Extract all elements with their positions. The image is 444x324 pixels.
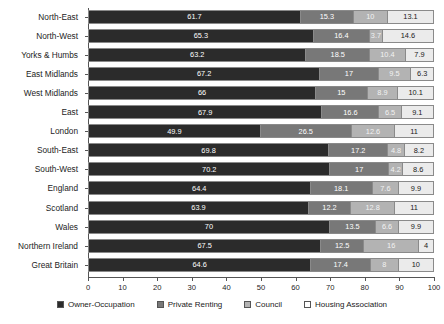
y-axis-label: South-East <box>37 143 78 157</box>
bar-segment: 10.1 <box>398 87 433 99</box>
bar-value-label: 64.4 <box>192 184 206 193</box>
x-axis-tick <box>399 277 400 281</box>
bar-value-label: 66 <box>198 88 206 97</box>
y-axis-label: South-West <box>35 162 78 176</box>
bar-row: 67.2179.56.3 <box>88 67 434 81</box>
y-axis-label: Yorks & Humbs <box>21 48 78 62</box>
bar-segment: 10.4 <box>370 49 406 61</box>
y-axis-label: Wales <box>55 220 78 234</box>
x-axis-tick <box>123 277 124 281</box>
legend-item[interactable]: Owner-Occupation <box>57 300 135 309</box>
bar-value-label: 63.9 <box>191 203 205 212</box>
bar-value-label: 18.1 <box>334 184 348 193</box>
legend-label: Housing Association <box>315 300 387 309</box>
bar-value-label: 12.5 <box>335 241 349 250</box>
bar-row: 61.715.31013.1 <box>88 10 434 24</box>
bar-value-label: 13.1 <box>403 12 417 21</box>
bar-value-label: 9.9 <box>411 184 421 193</box>
legend-label: Council <box>255 300 282 309</box>
bar-segment: 17 <box>330 163 388 175</box>
y-axis-label: West Midlands <box>24 86 78 100</box>
y-axis-category-labels: North-EastNorth-WestYorks & HumbsEast Mi… <box>0 8 84 276</box>
bar-segment: 13.1 <box>388 11 433 23</box>
bar-segment: 8.9 <box>368 87 399 99</box>
bar-segment: 8.6 <box>403 163 433 175</box>
bar-value-label: 10.1 <box>408 88 422 97</box>
legend-item[interactable]: Housing Association <box>304 300 387 309</box>
bar-segment: 6.5 <box>379 106 401 118</box>
x-axis-tick <box>434 277 435 281</box>
x-axis-tick <box>88 277 89 281</box>
bar-value-label: 7.9 <box>414 50 424 59</box>
y-axis-label: North-East <box>38 10 78 24</box>
bar-value-label: 8.6 <box>413 165 423 174</box>
bar-value-label: 15 <box>337 88 345 97</box>
bar-value-label: 12.2 <box>322 203 336 212</box>
x-axis-tick-label: 90 <box>395 283 403 292</box>
bar-segment: 9.9 <box>399 221 433 233</box>
bar-row: 63.912.212.811 <box>88 201 434 215</box>
bar-segment: 64.6 <box>89 259 311 271</box>
bar-value-label: 64.6 <box>192 260 206 269</box>
x-axis-tick-label: 10 <box>118 283 126 292</box>
bar-value-label: 10 <box>366 12 374 21</box>
legend-swatch-icon <box>157 301 164 308</box>
bar-segment: 4.8 <box>388 144 405 156</box>
bar-value-label: 12.8 <box>365 203 379 212</box>
x-axis-tick-label: 50 <box>257 283 265 292</box>
bar-segment: 67.5 <box>89 240 321 252</box>
bar-segment: 11 <box>395 125 433 137</box>
x-axis-tick <box>261 277 262 281</box>
bar-segment: 65.3 <box>89 30 314 42</box>
bar-value-label: 67.2 <box>197 69 211 78</box>
bar-segment: 16.4 <box>314 30 370 42</box>
bar-segment: 9.1 <box>402 106 433 118</box>
bar-value-label: 65.3 <box>194 31 208 40</box>
bar-segment: 63.9 <box>89 202 309 214</box>
bar-row: 7013.56.69.9 <box>88 220 434 234</box>
bar-row: 66158.910.1 <box>88 86 434 100</box>
bar-value-label: 6.5 <box>385 108 395 117</box>
bar-value-label: 9.9 <box>411 222 421 231</box>
bar-value-label: 17 <box>355 165 363 174</box>
bar-segment: 67.9 <box>89 106 322 118</box>
bar-value-label: 61.7 <box>187 12 201 21</box>
x-axis-tick <box>226 277 227 281</box>
bar-row: 70.2174.28.6 <box>88 162 434 176</box>
bar-value-label: 9.5 <box>389 69 399 78</box>
bar-segment: 8.2 <box>405 144 433 156</box>
bar-value-label: 7.6 <box>380 184 390 193</box>
bar-segment: 7.6 <box>373 182 399 194</box>
bar-row: 64.617.4810 <box>88 258 434 272</box>
bar-segment: 7.9 <box>406 49 433 61</box>
x-axis-tick-label: 40 <box>222 283 230 292</box>
bar-row: 64.418.17.69.9 <box>88 181 434 195</box>
x-axis-tick-label: 30 <box>188 283 196 292</box>
bar-value-label: 70 <box>205 222 213 231</box>
bar-segment: 70 <box>89 221 330 233</box>
legend-item[interactable]: Private Renting <box>157 300 223 309</box>
x-axis-tick <box>330 277 331 281</box>
bar-value-label: 15.3 <box>320 12 334 21</box>
bar-value-label: 14.6 <box>401 31 415 40</box>
y-axis-label: North-West <box>36 29 78 43</box>
bar-row: 67.916.66.59.1 <box>88 105 434 119</box>
bar-segment: 66 <box>89 87 316 99</box>
x-axis-tick-label: 60 <box>291 283 299 292</box>
y-axis-label: Scotland <box>46 201 78 215</box>
bar-value-label: 17 <box>345 69 353 78</box>
bar-segment: 64.4 <box>89 182 311 194</box>
bar-value-label: 16 <box>387 241 395 250</box>
bar-value-label: 69.8 <box>201 146 215 155</box>
bar-segment: 11 <box>395 202 433 214</box>
bar-segment: 9.5 <box>379 68 412 80</box>
bar-value-label: 10.4 <box>380 50 394 59</box>
legend-label: Owner-Occupation <box>68 300 135 309</box>
bar-segment: 18.5 <box>306 49 370 61</box>
bar-value-label: 6.6 <box>382 222 392 231</box>
bar-value-label: 9.1 <box>412 108 422 117</box>
x-axis-tick-label: 70 <box>326 283 334 292</box>
bar-segment: 12.6 <box>352 125 395 137</box>
bar-row: 69.817.24.88.2 <box>88 143 434 157</box>
legend-item[interactable]: Council <box>244 300 282 309</box>
